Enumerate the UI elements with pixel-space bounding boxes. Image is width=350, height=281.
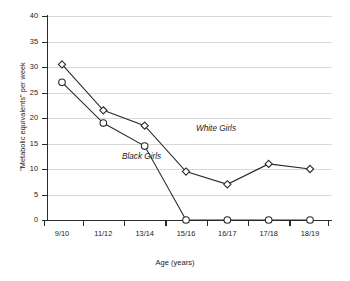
data-point	[100, 120, 107, 127]
data-point	[306, 165, 313, 172]
data-point	[224, 181, 231, 188]
series-layer	[0, 0, 350, 281]
data-point	[265, 217, 272, 224]
series-label-black-girls: Black Girls	[122, 152, 161, 161]
data-point	[59, 79, 66, 86]
chart-container: "Metabolic equivalents" per week Age (ye…	[0, 0, 350, 281]
data-point	[141, 143, 148, 150]
data-point	[183, 217, 190, 224]
data-point	[265, 160, 272, 167]
data-point	[307, 217, 314, 224]
series-line-black-girls	[62, 82, 310, 220]
data-point	[224, 217, 231, 224]
series-line-white-girls	[62, 64, 310, 184]
series-label-white-girls: White Girls	[196, 124, 236, 133]
